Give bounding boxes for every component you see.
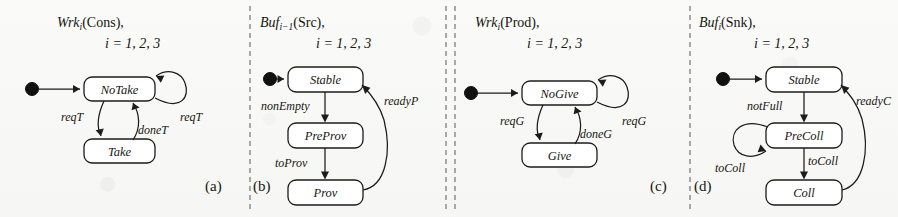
panel-b-initial-arrowhead [278, 75, 285, 83]
panel-c-initial-state-dot [465, 87, 478, 100]
panel-c-tag: (c) [650, 178, 667, 195]
panel-a-selfloop-reqt-arrowhead [156, 75, 164, 82]
panel-d-edge-notfull-label: notFull [747, 99, 783, 113]
panel-b-edge-readyp-label: readyP [384, 94, 419, 108]
panel-a-title-rest: (Cons), [82, 15, 124, 31]
panel-b-title-main: Buf [260, 15, 282, 30]
panel-b-state-preprov-label: PreProv [304, 129, 347, 143]
panel-a-state-notake-label: NoTake [100, 83, 139, 97]
panel-d-edge-tocoll-label: toColl [808, 154, 839, 168]
panel-d-state-stable-label: Stable [788, 73, 820, 87]
panel-b-state-stable-label: Stable [310, 73, 342, 87]
panel-d-selfloop-tocoll-arrowhead [758, 144, 766, 152]
panel-d-title-line2: i = 1, 2, 3 [754, 36, 809, 51]
panel-d: Bufi(Snk), i = 1, 2, 3 Stable PreColl Co… [690, 0, 898, 217]
panel-d-edge-tocoll-arrowhead [800, 172, 808, 180]
panel-a: Wrki(Cons), i = 1, 2, 3 NoTake Take reqT… [0, 0, 250, 217]
panel-b-title-sub: i−1 [279, 22, 293, 32]
panel-c-selfloop-reqg-arrowhead [598, 79, 606, 86]
panel-a-state-take-label: Take [108, 145, 132, 159]
panel-d-edge-notfull-arrowhead [800, 115, 808, 123]
panel-b-edge-nonempty-arrowhead [321, 115, 329, 123]
panel-a-initial-state-dot [26, 83, 39, 96]
panel-b-edge-toprov-label: toProv [275, 156, 308, 170]
panel-b-edge-nonempty-label: nonEmpty [261, 99, 310, 113]
panel-a-initial-arrowhead [73, 85, 80, 93]
panel-d-initial-state-dot [717, 73, 730, 86]
panel-c-title-line2: i = 1, 2, 3 [527, 36, 582, 51]
panel-d-title: Bufi(Snk), [699, 15, 756, 32]
panel-c: Wrki(Prod), i = 1, 2, 3 NoGive Give reqG… [455, 0, 690, 217]
panel-c-edge-reqg-arrowhead [535, 133, 543, 140]
panel-c-edge-reqg-label: reqG [500, 114, 525, 128]
panel-b-title: Bufi−1(Src), [260, 15, 325, 32]
panel-a-edge-reqt-arrowhead [96, 129, 104, 136]
panel-c-title: Wrki(Prod), [475, 15, 539, 32]
panel-b-state-prov-label: Prov [313, 186, 338, 200]
panel-d-state-coll-label: Coll [793, 186, 815, 200]
panel-c-selfloop-reqg-label: reqG [622, 114, 647, 128]
figure-canvas: Wrki(Cons), i = 1, 2, 3 NoTake Take reqT… [0, 0, 898, 217]
panel-a-selfloop-reqt-label: reqT [180, 110, 204, 124]
panel-c-initial-arrowhead [511, 89, 518, 97]
panel-b-title-line2: i = 1, 2, 3 [316, 36, 371, 51]
panel-b-title-rest: (Src), [293, 15, 325, 31]
panel-d-tag: (d) [694, 178, 712, 195]
panel-b-initial-state-dot [264, 73, 277, 86]
panel-a-tag: (a) [205, 178, 222, 195]
panel-c-state-nogive-label: NoGive [539, 87, 579, 101]
panel-d-edge-readyc-label: readyC [856, 94, 892, 108]
panel-d-initial-arrowhead [755, 75, 762, 83]
panel-d-title-rest: (Snk), [721, 15, 756, 31]
panel-c-edge-doneg-label: doneG [580, 127, 612, 141]
panel-d-state-precoll-label: PreColl [783, 129, 824, 143]
panel-a-title: Wrki(Cons), [57, 15, 124, 32]
panel-c-title-main: Wrk [475, 15, 498, 30]
panel-c-title-rest: (Prod), [500, 15, 539, 31]
panel-c-state-give-label: Give [548, 149, 572, 163]
panel-a-title-line2: i = 1, 2, 3 [105, 36, 160, 51]
panel-b-tag: (b) [253, 178, 271, 195]
panel-a-title-main: Wrk [57, 15, 80, 30]
panel-a-edge-reqt-label: reqT [61, 110, 85, 124]
panel-d-selfloop-tocoll-label: toColl [715, 161, 746, 175]
panel-b-edge-toprov-arrowhead [321, 172, 329, 180]
panel-a-edge-donet-label: doneT [138, 123, 169, 137]
panel-d-title-main: Buf [699, 15, 721, 30]
panel-b: Bufi−1(Src), i = 1, 2, 3 Stable PreProv … [250, 0, 450, 217]
